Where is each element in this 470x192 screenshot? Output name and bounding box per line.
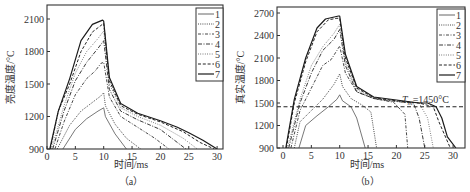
series-line-3	[55, 62, 169, 149]
y-tick-label: 1800	[24, 46, 44, 57]
x-tick-label: 30	[448, 150, 458, 161]
y-tick-label: 900	[29, 144, 44, 155]
chart-panel-a: 0510152025309001200150018002100时间/ms亮度温度…	[4, 5, 223, 187]
series-group	[50, 20, 217, 149]
x-tick-label: 0	[45, 151, 50, 162]
x-tick-label: 0	[281, 150, 286, 161]
x-tick-label: 30	[212, 151, 222, 162]
x-tick-label: 25	[420, 150, 430, 161]
panel-label: （b）	[355, 176, 380, 187]
y-axis-label: 真实温度/°C	[234, 50, 246, 104]
chart-figure: 0510152025309001200150018002100时间/ms亮度温度…	[0, 0, 470, 192]
y-tick-label: 1800	[254, 75, 274, 86]
x-tick-label: 10	[335, 150, 345, 161]
y-tick-label: 1200	[254, 120, 274, 131]
series-line-5	[288, 24, 434, 148]
legend: 1234567	[196, 8, 223, 81]
legend-label: 7	[456, 70, 461, 81]
series-line-3	[291, 46, 408, 148]
series-line-5	[52, 31, 198, 149]
x-tick-label: 10	[99, 151, 109, 162]
series-line-2	[57, 93, 140, 149]
legend-label: 7	[215, 69, 220, 80]
series-line-1	[63, 108, 127, 149]
x-tick-label: 5	[309, 150, 314, 161]
series-line-1	[299, 95, 365, 148]
y-axis-label: 亮度温度/°C	[4, 50, 16, 104]
y-tick-label: 2100	[24, 14, 44, 25]
y-tick-label: 1200	[24, 111, 44, 122]
y-tick-label: 2100	[254, 53, 274, 64]
melting-point-annotation: Tm=1450°C	[402, 94, 449, 107]
panel-label: （a）	[119, 176, 143, 187]
y-tick-label: 1500	[24, 79, 44, 90]
x-tick-label: 20	[391, 150, 401, 161]
series-line-6	[286, 18, 450, 148]
series-line-4	[53, 41, 186, 149]
y-tick-label: 2700	[254, 8, 274, 19]
series-group	[286, 16, 456, 148]
legend: 1234567	[437, 9, 465, 82]
y-tick-label: 900	[259, 143, 274, 154]
x-tick-label: 5	[73, 151, 78, 162]
y-tick-label: 2400	[254, 30, 274, 41]
y-tick-label: 1500	[254, 98, 274, 109]
chart-panel-b: Tm=1450°C0510152025309001200150018002100…	[234, 7, 465, 187]
x-tick-label: 25	[184, 151, 194, 162]
x-tick-label: 20	[155, 151, 165, 162]
series-line-7	[286, 16, 456, 148]
x-axis-label: 时间/ms	[350, 158, 385, 170]
x-axis-label: 时间/ms	[114, 158, 149, 170]
